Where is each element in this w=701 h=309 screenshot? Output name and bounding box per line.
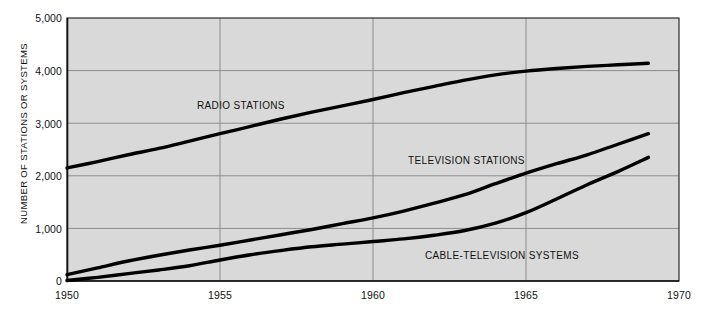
series-label-cable-television-systems: CABLE-TELEVISION SYSTEMS — [425, 250, 579, 261]
series-label-radio-stations: RADIO STATIONS — [197, 100, 285, 111]
plot-canvas — [0, 0, 701, 309]
x-tick-1960: 1960 — [353, 289, 393, 301]
x-tick-1970: 1970 — [659, 289, 699, 301]
series-label-television-stations: TELEVISION STATIONS — [408, 155, 525, 166]
x-tick-1955: 1955 — [200, 289, 240, 301]
x-tick-1965: 1965 — [506, 289, 546, 301]
chart-figure: NUMBER OF STATIONS OR SYSTEMS 5,000 4,00… — [0, 0, 701, 309]
x-tick-1950: 1950 — [47, 289, 87, 301]
